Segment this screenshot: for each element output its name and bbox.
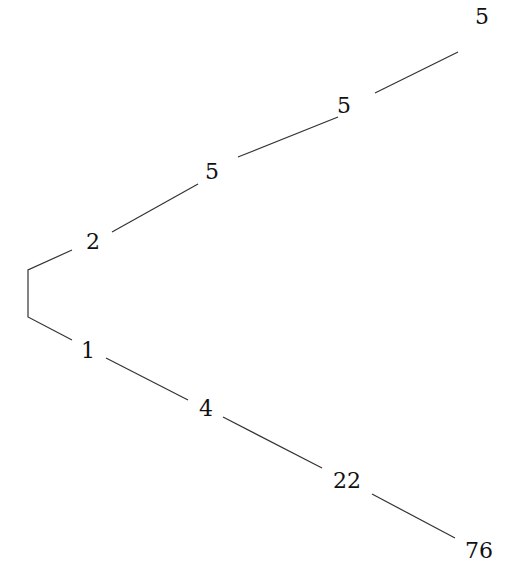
edges (0, 0, 517, 587)
node-upper-3: 5 (475, 6, 489, 28)
node-upper-0: 2 (86, 231, 100, 253)
edge-5b-to-5c (375, 52, 458, 93)
edge-4-to-22 (223, 417, 322, 468)
node-lower-2: 22 (333, 470, 361, 492)
node-upper-2: 5 (337, 95, 351, 117)
edge-2-to-5a (112, 184, 198, 232)
node-lower-1: 4 (199, 398, 213, 420)
node-lower-3: 76 (465, 540, 493, 562)
edge-5a-to-5b (238, 117, 338, 157)
edge-1-to-4 (106, 358, 188, 400)
node-upper-1: 5 (205, 161, 219, 183)
tree-diagram: 2 5 5 5 1 4 22 76 (0, 0, 517, 587)
node-lower-0: 1 (81, 340, 95, 362)
root-bracket (28, 250, 72, 340)
edge-22-to-76 (372, 494, 455, 538)
